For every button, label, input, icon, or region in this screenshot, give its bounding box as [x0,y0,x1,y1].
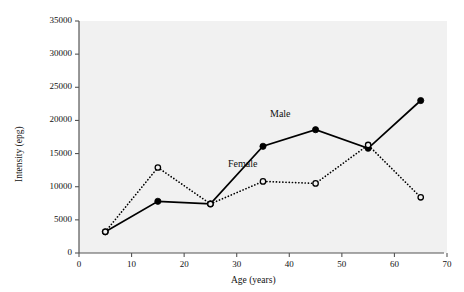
data-point-female [103,229,108,234]
series-line-male [105,101,420,232]
y-tick-label: 30000 [18,48,72,58]
x-tick-label: 10 [117,259,147,269]
x-tick-label: 50 [327,259,357,269]
y-axis-title: Intensity (epg) [14,126,24,182]
y-tick-label: 15000 [18,148,72,158]
data-point-female [313,181,318,186]
data-point-male [260,143,266,149]
data-point-male [155,198,161,204]
x-tick-label: 70 [432,259,462,269]
data-point-female [155,165,160,170]
chart-figure: 0500010000150002000025000300003500001020… [0,0,464,292]
y-tick-label: 5000 [18,214,72,224]
data-point-female [260,179,265,184]
x-tick-label: 0 [64,259,94,269]
x-axis-title: Age (years) [231,275,276,285]
data-point-male [418,97,424,103]
data-point-female [418,195,423,200]
x-tick-label: 20 [169,259,199,269]
data-point-female [208,201,213,206]
x-tick-label: 60 [379,259,409,269]
x-tick-label: 30 [222,259,252,269]
y-tick-label: 10000 [18,181,72,191]
x-tick-label: 40 [274,259,304,269]
data-point-female [365,142,370,147]
series-group [102,97,424,234]
axes-group [75,21,447,257]
y-tick-label: 25000 [18,81,72,91]
series-label-female: Female [228,158,257,169]
y-tick-label: 20000 [18,114,72,124]
series-label-male: Male [270,108,291,119]
series-line-female [105,145,420,232]
y-tick-label: 35000 [18,15,72,25]
y-tick-label: 0 [18,247,72,257]
data-point-male [312,127,318,133]
